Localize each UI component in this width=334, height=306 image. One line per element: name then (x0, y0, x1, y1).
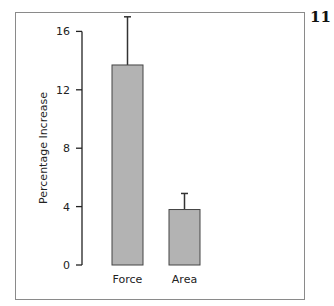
y-tick-label: 16 (56, 25, 70, 38)
y-tick-label: 12 (56, 84, 70, 97)
y-axis: 0481216 (56, 25, 82, 272)
bar-rect (169, 210, 200, 265)
x-category-label: Force (113, 273, 143, 286)
x-category-label: Area (172, 273, 197, 286)
bar-force: Force (112, 17, 143, 286)
y-axis-label: Percentage Increase (37, 92, 50, 204)
y-tick-label: 8 (63, 142, 70, 155)
y-tick-label: 4 (63, 201, 70, 214)
bars: ForceArea (112, 17, 200, 286)
bar-area: Area (169, 193, 200, 286)
bar-chart: 0481216 ForceArea Percentage Increase (0, 0, 334, 306)
y-tick-label: 0 (63, 259, 70, 272)
bar-rect (112, 65, 143, 265)
